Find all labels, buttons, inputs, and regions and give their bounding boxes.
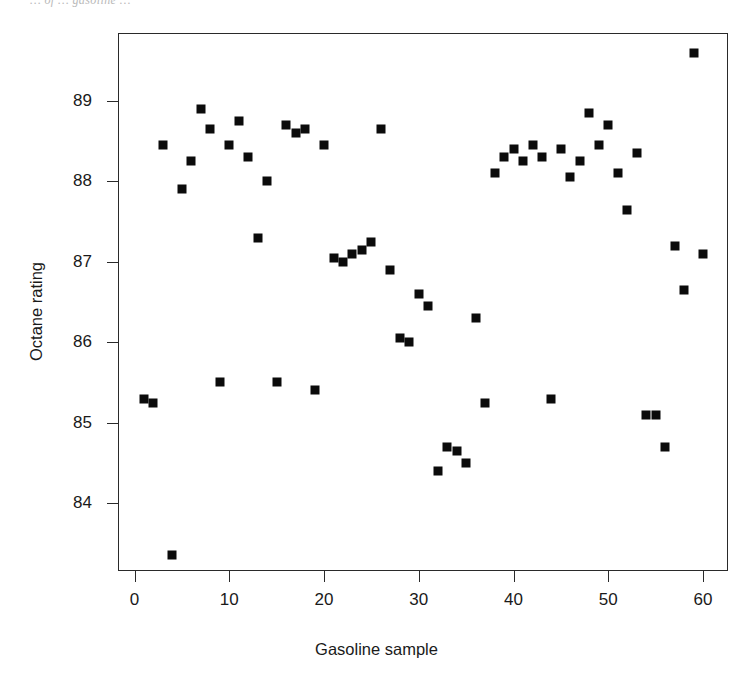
y-axis-label: Octane rating	[27, 232, 46, 392]
y-axis-tick	[107, 101, 118, 102]
y-axis-tick-label: 89	[73, 91, 92, 111]
y-axis-tick-label: 86	[73, 332, 92, 352]
y-axis-tick-label: 84	[73, 493, 92, 513]
x-axis-tick-label: 10	[220, 590, 239, 610]
x-axis-tick	[419, 571, 420, 582]
y-axis-tick	[107, 262, 118, 263]
y-axis-tick-label: 88	[73, 171, 92, 191]
y-axis-tick-label: 87	[73, 252, 92, 272]
x-axis-tick	[514, 571, 515, 582]
x-axis-tick-label: 50	[599, 590, 618, 610]
x-axis-tick-label: 40	[504, 590, 523, 610]
x-axis-tick	[703, 571, 704, 582]
x-axis-tick	[135, 571, 136, 582]
x-axis-tick	[608, 571, 609, 582]
y-axis-tick-label: 85	[73, 413, 92, 433]
y-axis-tick	[107, 342, 118, 343]
y-axis-tick	[107, 423, 118, 424]
y-axis-tick	[107, 181, 118, 182]
x-axis-tick-label: 30	[409, 590, 428, 610]
x-axis-tick	[324, 571, 325, 582]
x-axis-label: Gasoline sample	[0, 640, 753, 659]
scatter-plot-figure: 8485868788890102030405060 Octane rating …	[0, 0, 753, 696]
x-axis-tick	[229, 571, 230, 582]
y-axis-tick	[107, 503, 118, 504]
x-axis-tick-label: 20	[315, 590, 334, 610]
x-axis-tick-label: 60	[694, 590, 713, 610]
plot-area-border	[118, 33, 728, 571]
x-axis-tick-label: 0	[130, 590, 139, 610]
